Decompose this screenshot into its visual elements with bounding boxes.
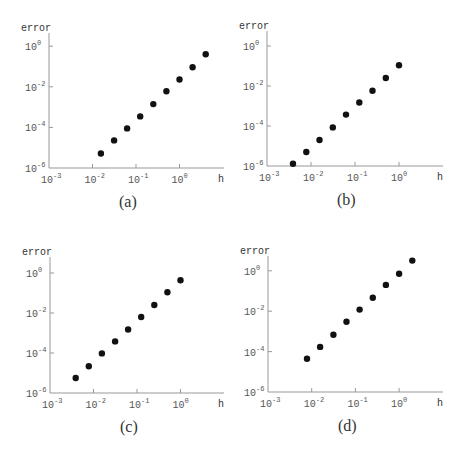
data-point	[177, 277, 183, 283]
figure-canvas: errorh10010-210-410-610-310-210-1100(a) …	[0, 0, 465, 453]
y-tick-label: 100	[244, 264, 260, 278]
y-axis-title: error	[239, 21, 269, 32]
data-point	[73, 375, 79, 381]
y-tick-label: 100	[243, 39, 259, 53]
x-axis-title: h	[218, 399, 224, 410]
x-axis-title: h	[437, 398, 443, 409]
data-point	[369, 88, 375, 94]
y-tick-label: 10-6	[243, 159, 263, 173]
data-point	[99, 350, 105, 356]
data-point	[151, 302, 157, 308]
data-point	[383, 282, 389, 288]
y-tick-label: 10-6	[244, 385, 264, 399]
data-point	[189, 64, 195, 70]
data-point	[163, 88, 169, 94]
x-tick-label: 10-3	[41, 172, 61, 186]
y-tick-label: 10-2	[243, 79, 263, 93]
data-point	[316, 137, 322, 143]
data-point	[138, 314, 144, 320]
data-point	[356, 99, 362, 105]
data-point	[98, 150, 104, 156]
x-tick-label: 100	[172, 172, 188, 186]
data-point	[164, 289, 170, 295]
x-tick-label: 100	[391, 170, 407, 184]
data-point	[396, 62, 402, 68]
y-tick-label: 10-4	[244, 345, 264, 359]
x-tick-label: 10-1	[347, 396, 367, 410]
panel-c: errorh10010-210-410-610-310-210-1100(c)	[22, 247, 224, 436]
data-point	[124, 125, 130, 131]
data-point	[111, 137, 117, 143]
y-tick-label: 100	[25, 39, 41, 53]
data-point	[203, 51, 209, 57]
x-tick-label: 10-3	[259, 170, 279, 184]
data-point	[137, 113, 143, 119]
data-point	[150, 101, 156, 107]
y-axis-title: error	[21, 23, 51, 34]
y-tick-label: 10-2	[25, 80, 45, 94]
x-tick-label: 100	[173, 397, 189, 411]
y-tick-label: 10-6	[26, 386, 46, 400]
data-point	[303, 149, 309, 155]
y-tick-label: 100	[26, 266, 42, 280]
x-axis-title: h	[437, 172, 443, 183]
data-point	[112, 338, 118, 344]
x-tick-label: 10-1	[347, 170, 367, 184]
data-point	[176, 76, 182, 82]
x-tick-label: 10-1	[128, 172, 148, 186]
data-point	[356, 306, 362, 312]
y-tick-label: 10-4	[25, 120, 45, 134]
x-tick-label: 10-3	[42, 397, 62, 411]
x-tick-label: 10-2	[303, 170, 323, 184]
data-point	[409, 257, 415, 263]
y-tick-label: 10-6	[25, 161, 45, 175]
data-point	[396, 271, 402, 277]
panel-a: errorh10010-210-410-610-310-210-1100(a)	[21, 23, 224, 211]
panel-b: errorh10010-210-410-610-310-210-1100(b)	[239, 21, 443, 209]
panel-caption: (a)	[119, 193, 137, 211]
data-point	[304, 356, 310, 362]
data-point	[330, 124, 336, 130]
x-tick-label: 10-2	[85, 172, 105, 186]
data-point	[125, 326, 131, 332]
data-point	[343, 111, 349, 117]
data-point	[383, 75, 389, 81]
y-tick-label: 10-4	[26, 346, 46, 360]
data-point	[330, 332, 336, 338]
panel-caption: (b)	[337, 191, 356, 209]
x-tick-label: 10-2	[304, 396, 324, 410]
y-axis-title: error	[22, 247, 52, 258]
panel-caption: (d)	[338, 417, 357, 435]
y-axis-title: error	[240, 246, 270, 257]
x-tick-label: 10-2	[86, 397, 106, 411]
x-axis-title: h	[218, 174, 224, 185]
data-point	[86, 363, 92, 369]
data-point	[317, 344, 323, 350]
y-tick-label: 10-4	[243, 119, 263, 133]
panel-d: errorh10010-210-410-610-310-210-1100(d)	[240, 246, 443, 435]
data-point	[370, 295, 376, 301]
y-tick-label: 10-2	[244, 304, 264, 318]
x-tick-label: 10-1	[129, 397, 149, 411]
panel-caption: (c)	[120, 418, 138, 436]
y-tick-label: 10-2	[26, 306, 46, 320]
x-tick-label: 10-3	[260, 396, 280, 410]
x-tick-label: 100	[391, 396, 407, 410]
data-point	[290, 161, 296, 167]
data-point	[343, 319, 349, 325]
